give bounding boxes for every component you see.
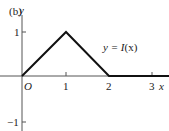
origin-label: O xyxy=(24,80,32,92)
x-tick-label-3: 3 xyxy=(149,80,155,92)
x-tick-label-2: 2 xyxy=(106,80,112,92)
y-tick-label-neg1: −1 xyxy=(7,116,19,128)
x-tick-label-1: 1 xyxy=(63,80,69,92)
y-tick-label-1: 1 xyxy=(14,26,20,38)
curve-label-arg: (x) xyxy=(124,41,137,54)
curve-I xyxy=(22,32,169,76)
curve-label-prefix: y = xyxy=(102,41,121,53)
y-axis-label: y xyxy=(18,4,24,16)
x-axis-label: x xyxy=(158,80,164,92)
curve-label: y = I(x) xyxy=(102,41,138,54)
plot: (b) y 1 −1 x O 1 2 3 y = I(x) xyxy=(0,0,169,131)
